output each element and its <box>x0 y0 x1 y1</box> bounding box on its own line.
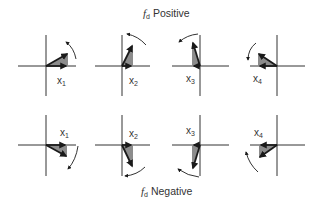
panel-label: x3 <box>186 125 195 137</box>
rotation-arrow-icon <box>179 34 198 42</box>
panel-negative-x1: x1 <box>18 115 78 176</box>
panel-label: x2 <box>129 75 138 87</box>
phasor-diagram: x1 x2 x3 x4 x1 <box>0 0 322 208</box>
rotation-arrow-icon <box>127 34 146 45</box>
panel-positive-x3: x3 <box>172 34 229 96</box>
panel-label: x4 <box>254 127 263 139</box>
panel-label: x1 <box>60 127 69 139</box>
rotation-arrow-icon <box>125 167 145 176</box>
panel-positive-x1: x1 <box>18 35 76 96</box>
panel-label: x1 <box>57 75 66 87</box>
panel-label: x3 <box>186 73 195 85</box>
panel-label: x4 <box>253 73 262 85</box>
panel-positive-x4: x4 <box>248 35 305 96</box>
panel-label: x2 <box>129 128 138 140</box>
panel-negative-x3: x3 <box>172 115 229 177</box>
panel-positive-x2: x2 <box>95 34 150 96</box>
rotation-arrow-icon <box>178 169 199 177</box>
rotation-arrow-icon <box>68 146 78 169</box>
rotation-arrow-icon <box>248 43 256 60</box>
panel-negative-x2: x2 <box>95 115 150 176</box>
rotation-arrow-icon <box>246 152 258 172</box>
panel-negative-x4: x4 <box>246 115 305 176</box>
